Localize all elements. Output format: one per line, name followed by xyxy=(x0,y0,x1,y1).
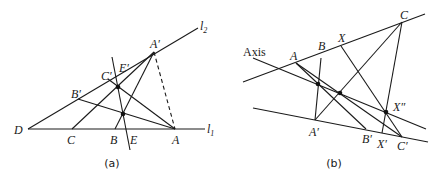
intersection-dot-1 xyxy=(316,82,321,87)
label-c: C xyxy=(400,8,409,22)
label-b: B xyxy=(318,39,326,53)
label-b-prime: B′ xyxy=(362,132,372,146)
line-a-b-prime xyxy=(296,63,366,129)
label-x-prime: X′ xyxy=(376,137,387,151)
label-a: A xyxy=(289,49,298,63)
panel-a: l2 l1 A′ E′ C′ B′ D C B E A (a) xyxy=(13,19,214,170)
label-e-prime: E′ xyxy=(118,61,129,75)
label-a-prime: A′ xyxy=(308,125,319,139)
label-b: B xyxy=(110,133,118,147)
intersection-dot-2 xyxy=(121,112,126,117)
label-c-prime: C′ xyxy=(101,69,112,83)
line-c-a-prime xyxy=(315,22,402,120)
label-a-prime: A′ xyxy=(149,37,160,51)
line-b-a-prime xyxy=(315,58,321,120)
diagram-canvas: l2 l1 A′ E′ C′ B′ D C B E A (a) Axis A B… xyxy=(0,0,446,178)
intersection-dot-x-double-prime xyxy=(384,110,389,115)
label-a: A xyxy=(171,133,180,147)
caption-b: (b) xyxy=(326,157,342,170)
line-x-c-prime xyxy=(341,46,402,137)
dashed-line-a-prime-a xyxy=(154,52,175,129)
intersection-dot-1 xyxy=(116,85,121,90)
caption-a: (a) xyxy=(104,157,119,170)
label-b-prime: B′ xyxy=(71,87,81,101)
label-x: X xyxy=(337,31,346,45)
label-d: D xyxy=(13,123,23,137)
label-l1: l1 xyxy=(207,122,214,138)
panel-b: Axis A B X C X″ A′ B′ X′ C′ (b) xyxy=(243,8,428,170)
line-b-prime-a xyxy=(78,99,175,129)
label-e: E xyxy=(129,133,138,147)
line-c-x-prime xyxy=(382,22,402,133)
label-c-prime: C′ xyxy=(397,139,408,153)
line-l2 xyxy=(28,28,198,129)
label-c: C xyxy=(67,133,76,147)
label-x-double-prime: X″ xyxy=(392,100,406,114)
label-l2: l2 xyxy=(200,19,207,35)
label-axis: Axis xyxy=(243,45,266,59)
intersection-dot-2 xyxy=(338,91,343,96)
